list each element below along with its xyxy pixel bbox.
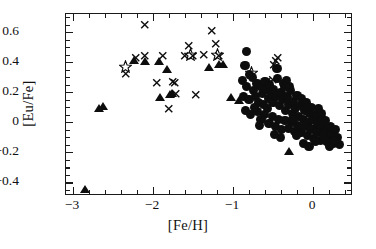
x-tick-label: −1 (212, 198, 252, 212)
axis-tick (66, 25, 70, 26)
axis-tick (185, 14, 186, 18)
axis-tick (347, 17, 351, 18)
axis-tick (66, 17, 70, 18)
axis-tick (347, 160, 351, 161)
y-tick-label: 0.6 (0, 24, 19, 38)
axis-tick (66, 77, 70, 78)
data-point-cross (140, 51, 150, 61)
axis-tick (66, 85, 70, 86)
data-point-circle (292, 131, 301, 140)
axis-tick (347, 47, 351, 48)
data-point-triangle (284, 147, 294, 155)
data-point-cross (152, 78, 162, 88)
axis-tick (281, 14, 282, 18)
y-tick-label: 0.2 (0, 84, 19, 98)
axis-tick (265, 190, 266, 194)
axis-tick (344, 122, 351, 123)
data-point-cross (268, 75, 278, 85)
axis-tick (347, 40, 351, 41)
axis-tick (73, 14, 74, 21)
axis-tick (281, 190, 282, 194)
axis-tick (66, 62, 73, 63)
y-axis-title: [Eu/Fe] (20, 54, 37, 154)
data-point-cross (164, 104, 174, 114)
y-tick-label: 0.4 (0, 54, 19, 68)
axis-tick (313, 14, 314, 21)
axis-tick (66, 137, 70, 138)
axis-tick (344, 152, 351, 153)
x-tick-label: 0 (292, 198, 332, 212)
axis-tick (297, 190, 298, 194)
axis-tick (347, 167, 351, 168)
axis-tick (265, 14, 266, 18)
axis-tick (344, 62, 351, 63)
x-axis-title: [Fe/H] (0, 217, 376, 234)
axis-tick (249, 14, 250, 18)
axis-tick (329, 14, 330, 18)
data-point-circle (242, 47, 251, 56)
data-point-star (184, 48, 197, 61)
data-point-circle (311, 137, 320, 146)
axis-tick (347, 100, 351, 101)
data-point-star (119, 60, 132, 73)
axis-tick (89, 190, 90, 194)
axis-tick (121, 14, 122, 18)
axis-tick (344, 32, 351, 33)
axis-tick (347, 77, 351, 78)
y-tick-label: −0.4 (0, 174, 19, 188)
axis-tick (347, 115, 351, 116)
axis-tick (66, 182, 73, 183)
axis-tick (66, 32, 73, 33)
data-point-circle (246, 110, 255, 119)
data-point-triangle (218, 60, 228, 68)
axis-tick (153, 187, 154, 194)
data-point-star (211, 48, 224, 61)
axis-tick (66, 122, 73, 123)
axis-tick (185, 190, 186, 194)
data-point-cross (207, 26, 217, 36)
plot-frame (65, 13, 352, 195)
axis-tick (347, 107, 351, 108)
axis-tick (105, 14, 106, 18)
axis-tick (153, 14, 154, 21)
axis-tick (233, 187, 234, 194)
data-point-circle (288, 115, 297, 124)
axis-tick (66, 167, 70, 168)
data-point-triangle (155, 93, 165, 101)
axis-tick (347, 145, 351, 146)
data-point-cross (269, 60, 279, 70)
data-point-triangle (162, 65, 172, 73)
axis-tick (137, 14, 138, 18)
axis-tick (66, 92, 73, 93)
axis-tick (66, 115, 70, 116)
axis-tick (217, 14, 218, 18)
axis-tick (297, 14, 298, 18)
axis-tick (347, 85, 351, 86)
data-point-cross (170, 78, 180, 88)
data-point-circle (330, 136, 339, 145)
axis-tick (347, 55, 351, 56)
axis-tick (66, 100, 70, 101)
axis-tick (66, 130, 70, 131)
axis-tick (121, 190, 122, 194)
axis-tick (169, 14, 170, 18)
y-tick-label: −0.2 (0, 144, 19, 158)
axis-tick (347, 175, 351, 176)
axis-tick (89, 14, 90, 18)
axis-tick (344, 182, 351, 183)
axis-tick (233, 14, 234, 21)
data-point-circle (255, 121, 264, 130)
x-tick-label: −3 (52, 198, 92, 212)
scatter-plot-figure: −3−2−100.60.40.20−0.2−0.4 [Fe/H] [Eu/Fe] (0, 0, 376, 249)
axis-tick (347, 70, 351, 71)
plot-data-area (66, 14, 351, 194)
data-point-cross (140, 20, 150, 30)
axis-tick (105, 190, 106, 194)
axis-tick (347, 130, 351, 131)
axis-tick (66, 190, 70, 191)
axis-tick (329, 190, 330, 194)
axis-tick (345, 14, 346, 18)
data-point-triangle (98, 102, 108, 110)
axis-tick (347, 190, 351, 191)
axis-tick (201, 14, 202, 18)
